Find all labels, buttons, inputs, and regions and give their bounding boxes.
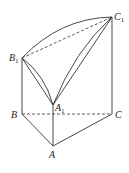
label-C: C (115, 109, 122, 120)
edge-AB (22, 114, 53, 146)
label-B: B (11, 109, 17, 120)
label-A1: A1 (54, 102, 65, 115)
edge-B1A1 (22, 58, 53, 105)
edge-AC (53, 114, 112, 146)
geometry-figure: C1 B1 A1 B C A (0, 0, 129, 173)
label-A: A (48, 149, 56, 160)
label-C1: C1 (114, 11, 125, 24)
label-B1: B1 (9, 52, 19, 65)
